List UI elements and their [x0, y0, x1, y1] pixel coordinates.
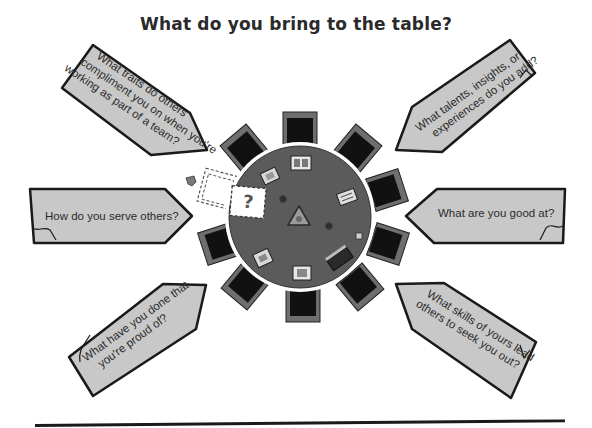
place-item: [356, 233, 362, 239]
prompt-mid-left: How do you serve others?: [30, 189, 192, 243]
table-decoration: [280, 196, 287, 203]
place-item: [291, 156, 311, 170]
prompt-top-right: What talents, insights, or experiences d…: [396, 40, 540, 152]
pull-in-arrow-icon: [186, 176, 196, 186]
place-item: [293, 266, 311, 280]
chair: [286, 288, 320, 322]
prompt-top-left: What traits do others compliment you on …: [62, 38, 227, 168]
prompt-bottom-right: What skills of yours lead others to seek…: [396, 283, 536, 398]
prompt-mid-left-line-1: How do you serve others?: [45, 210, 179, 222]
round-table-diagram: What traits do others compliment you on …: [0, 0, 592, 428]
round-table: ?: [225, 142, 375, 292]
chair: [283, 112, 317, 146]
empty-place-card: ?: [230, 186, 266, 219]
prompt-mid-right-line-1: What are you good at?: [438, 207, 554, 219]
question-mark-icon: ?: [242, 191, 254, 213]
table-decoration: [326, 223, 333, 230]
prompt-bottom-left: What have you done that you're proud of?: [69, 278, 206, 396]
prompt-mid-right: What are you good at?: [406, 189, 565, 243]
